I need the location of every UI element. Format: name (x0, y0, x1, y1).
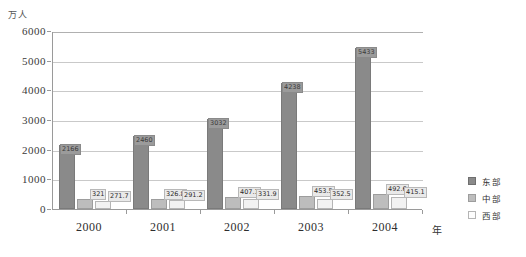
legend-label-central: 中部 (482, 192, 501, 204)
y-tick-label-4000: 4000 (4, 84, 46, 96)
legend-item-east[interactable]: 东部 (468, 172, 501, 189)
chart-legend: 东部 中部 西部 (468, 172, 501, 223)
bar-group-2004: 5433492.6415.1 (355, 31, 429, 209)
bar-value-label-中部-2000: 321 (90, 189, 106, 200)
x-tick-label-2003: 2003 (276, 220, 346, 235)
legend-label-east: 东部 (482, 175, 501, 187)
bar-value-label-东部-2000: 2166 (60, 144, 81, 155)
bar-中部-2003[interactable] (299, 196, 315, 209)
bar-value-label-西部-2000: 271.7 (108, 191, 131, 202)
bar-西部-2001[interactable] (169, 200, 185, 209)
y-tick-mark-2000 (47, 150, 51, 151)
y-tick-mark-4000 (47, 90, 51, 91)
legend-item-central[interactable]: 中部 (468, 189, 501, 206)
bar-value-label-西部-2004: 415.1 (404, 187, 427, 198)
bar-西部-2004[interactable] (391, 197, 407, 209)
bar-value-label-西部-2003: 352.5 (330, 189, 353, 200)
bar-value-label-东部-2002: 3032 (208, 118, 229, 129)
y-tick-mark-3000 (47, 120, 51, 121)
bar-中部-2001[interactable] (151, 199, 167, 209)
bar-东部-2004[interactable] (355, 48, 371, 209)
bar-中部-2002[interactable] (225, 197, 241, 209)
bar-value-label-东部-2003: 4238 (282, 82, 303, 93)
bar-东部-2001[interactable] (133, 136, 149, 209)
bar-中部-2000[interactable] (77, 199, 93, 209)
x-tick-mark-2002 (274, 210, 275, 214)
bar-西部-2000[interactable] (95, 201, 111, 209)
x-tick-label-2002: 2002 (202, 220, 272, 235)
y-tick-mark-5000 (47, 61, 51, 62)
x-axis-unit-label: 年 (432, 222, 442, 237)
plot-area: 2166321271.72460326.8291.23032407.1331.9… (52, 32, 422, 210)
y-tick-mark-6000 (47, 31, 51, 32)
bar-中部-2004[interactable] (373, 194, 389, 209)
legend-item-west[interactable]: 西部 (468, 206, 501, 223)
legend-swatch-west (468, 211, 476, 219)
bar-东部-2003[interactable] (281, 83, 297, 209)
bar-group-2003: 4238453.5352.5 (281, 31, 355, 209)
y-tick-mark-1000 (47, 179, 51, 180)
x-tick-label-2001: 2001 (128, 220, 198, 235)
legend-label-west: 西部 (482, 209, 501, 221)
y-tick-label-0: 0 (4, 203, 46, 215)
bar-西部-2003[interactable] (317, 199, 333, 209)
bar-value-label-西部-2002: 331.9 (256, 189, 279, 200)
bar-东部-2002[interactable] (207, 119, 223, 209)
x-tick-mark-2000 (126, 210, 127, 214)
x-tick-label-2000: 2000 (54, 220, 124, 235)
x-tick-mark-2003 (348, 210, 349, 214)
bar-group-2000: 2166321271.7 (59, 31, 133, 209)
x-tick-mark-2004 (422, 210, 423, 214)
bar-value-label-西部-2001: 291.2 (182, 190, 205, 201)
legend-swatch-central (468, 194, 476, 202)
x-tick-label-2004: 2004 (350, 220, 420, 235)
bar-group-2001: 2460326.8291.2 (133, 31, 207, 209)
y-tick-label-6000: 6000 (4, 25, 46, 37)
y-tick-mark-0 (47, 209, 51, 210)
y-axis-unit-label: 万人 (8, 8, 28, 21)
y-tick-label-1000: 1000 (4, 173, 46, 185)
bar-group-2002: 3032407.1331.9 (207, 31, 281, 209)
bar-value-label-东部-2004: 5433 (356, 47, 377, 58)
bar-西部-2002[interactable] (243, 199, 259, 209)
y-tick-label-2000: 2000 (4, 144, 46, 156)
x-tick-mark-2001 (200, 210, 201, 214)
bar-value-label-东部-2001: 2460 (134, 135, 155, 146)
y-tick-label-3000: 3000 (4, 114, 46, 126)
y-tick-label-5000: 5000 (4, 55, 46, 67)
bar-chart: 万人 0100020003000400050006000 2166321271.… (0, 0, 526, 257)
legend-swatch-east (468, 177, 476, 185)
